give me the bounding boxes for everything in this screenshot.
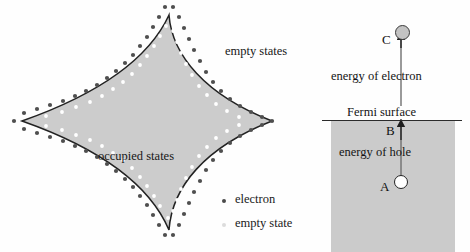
electron-dot-icon xyxy=(222,199,226,203)
label-empty-states: empty states xyxy=(225,45,287,58)
point-label-b: B xyxy=(386,124,395,137)
right-panel-energy-diagram: C B A energy of electron Fermi surface e… xyxy=(300,0,470,252)
fermi-surface-star-shape xyxy=(0,0,300,252)
empty-state-dot-icon xyxy=(222,223,226,227)
label-occupied-states: occupied states xyxy=(98,150,174,163)
legend-label-electron: electron xyxy=(235,192,275,207)
left-panel-fermi-surface: empty states occupied states electron em… xyxy=(0,0,300,252)
hole-state-circle-a xyxy=(394,175,408,189)
point-label-c: C xyxy=(382,33,391,46)
point-label-a: A xyxy=(380,180,389,193)
label-fermi-surface: Fermi surface xyxy=(346,106,417,119)
electron-state-circle-c xyxy=(395,25,410,40)
legend-label-empty-state: empty state xyxy=(235,216,292,231)
figure-canvas: empty states occupied states electron em… xyxy=(0,0,470,252)
label-energy-of-hole: energy of hole xyxy=(339,146,411,159)
label-energy-of-electron: energy of electron xyxy=(331,70,422,83)
